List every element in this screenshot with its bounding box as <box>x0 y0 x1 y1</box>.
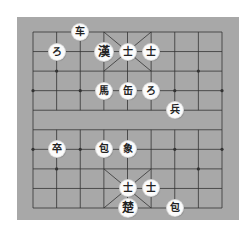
piece-label: 象 <box>123 144 133 154</box>
piece-horse[interactable]: 馬 <box>96 83 112 99</box>
piece-label: 士 <box>146 183 156 193</box>
piece-label: 车 <box>75 27 85 37</box>
piece-horse[interactable]: ろ <box>143 83 159 99</box>
piece-label: 缶 <box>123 86 133 96</box>
piece-label: ろ <box>52 47 62 57</box>
piece-horse[interactable]: ろ <box>49 44 65 60</box>
piece-label: 馬 <box>99 86 109 96</box>
piece-label: 漢 <box>98 46 110 58</box>
piece-advisor[interactable]: 士 <box>143 44 159 60</box>
piece-label: ろ <box>146 86 156 96</box>
piece-cannon[interactable]: 包 <box>167 200 183 216</box>
piece-label: 包 <box>170 203 180 213</box>
piece-soldier[interactable]: 卒 <box>49 141 65 157</box>
piece-elephant[interactable]: 象 <box>120 141 136 157</box>
piece-label: 包 <box>99 144 109 154</box>
piece-advisor[interactable]: 士 <box>120 44 136 60</box>
piece-general[interactable]: 楚 <box>119 199 137 217</box>
piece-label: 楚 <box>122 202 134 214</box>
piece-label: 兵 <box>170 105 180 115</box>
piece-label: 士 <box>146 47 156 57</box>
piece-general[interactable]: 漢 <box>95 43 113 61</box>
piece-label: 士 <box>123 47 133 57</box>
piece-soldier[interactable]: 兵 <box>167 102 183 118</box>
piece-advisor[interactable]: 士 <box>120 180 136 196</box>
piece-label: 卒 <box>52 144 62 154</box>
piece-label: 士 <box>123 183 133 193</box>
piece-cannon[interactable]: 缶 <box>120 83 136 99</box>
